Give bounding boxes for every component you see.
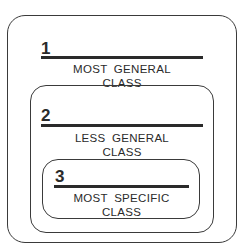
level-3-number: 3	[55, 168, 64, 185]
level-1-rule	[41, 56, 203, 59]
level-3-label: MOST SPECIFIC CLASS	[54, 191, 189, 219]
level-3-label-line2: CLASS	[54, 205, 189, 219]
level-3-rule	[54, 185, 189, 188]
level-2-label-line2: CLASS	[41, 145, 203, 159]
level-1-number: 1	[41, 40, 50, 57]
level-3-label-line1: MOST SPECIFIC	[54, 191, 189, 205]
level-1-label-line1: MOST GENERAL	[41, 62, 203, 76]
level-2-label-line1: LESS GENERAL	[41, 131, 203, 145]
level-2-label: LESS GENERAL CLASS	[41, 131, 203, 159]
level-2-number: 2	[41, 107, 50, 124]
level-2-rule	[41, 124, 203, 127]
